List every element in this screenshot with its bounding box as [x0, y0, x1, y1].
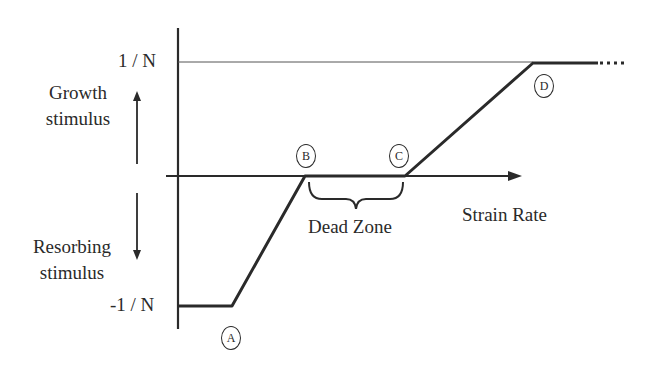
diagram-canvas: [0, 0, 653, 368]
upper-limit-label: 1 / N: [118, 50, 156, 72]
down-arrow-icon: [133, 250, 141, 260]
x-axis-arrow-icon: [508, 171, 522, 181]
point-c-marker: C: [389, 144, 409, 168]
point-b-marker: B: [296, 144, 316, 168]
growth-label-line1: Growth: [38, 82, 118, 104]
point-d-marker: D: [534, 74, 554, 98]
dead-zone-label: Dead Zone: [308, 216, 392, 238]
dead-zone-brace: [309, 182, 403, 209]
lower-limit-label: -1 / N: [110, 294, 154, 316]
x-axis-label: Strain Rate: [462, 204, 547, 226]
resorbing-label-line1: Resorbing: [22, 236, 122, 258]
resorbing-label-line2: stimulus: [22, 262, 122, 284]
point-a-marker: A: [221, 326, 241, 350]
up-arrow-icon: [133, 91, 141, 101]
growth-label-line2: stimulus: [38, 108, 118, 130]
response-curve: [178, 63, 598, 306]
